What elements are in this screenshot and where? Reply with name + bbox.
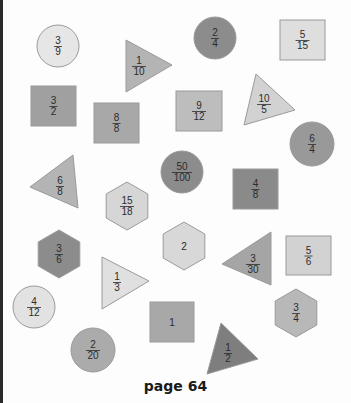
- fraction-numerator: 8: [114, 112, 120, 123]
- fraction-denominator: 10: [133, 66, 145, 77]
- fraction-denominator: 8: [57, 186, 63, 197]
- fraction-numerator: 4: [253, 178, 259, 189]
- square-shape: 48: [233, 169, 278, 209]
- fraction-numerator: 1: [136, 55, 142, 66]
- hexagon-shape: 36: [38, 230, 80, 278]
- square-shape: 912: [176, 91, 222, 131]
- fraction-denominator: 3: [114, 282, 120, 293]
- fraction-numerator: 15: [121, 195, 133, 206]
- shape-label: 1: [169, 317, 175, 328]
- fraction-denominator: 30: [247, 264, 259, 275]
- fraction-denominator: 20: [87, 350, 99, 361]
- fraction-numerator: 3: [51, 95, 57, 106]
- fraction-denominator: 2: [225, 353, 231, 364]
- fraction-denominator: 8: [114, 123, 120, 134]
- fraction-denominator: 4: [212, 38, 218, 49]
- fraction-denominator: 100: [174, 172, 191, 183]
- hexagon-shape: 2: [163, 222, 205, 270]
- circle-shape: 39: [37, 25, 79, 67]
- triangle-shape: 68: [30, 155, 78, 208]
- fraction-numerator: 1: [225, 342, 231, 353]
- fraction-denominator: 6: [306, 256, 312, 267]
- circle-shape: 24: [194, 17, 236, 59]
- fraction-denominator: 12: [28, 307, 40, 318]
- fraction-numerator: 3: [55, 35, 61, 46]
- page-number: page 64: [0, 378, 351, 394]
- fraction-numerator: 2: [212, 27, 218, 38]
- hexagon-shape: 34: [275, 289, 317, 337]
- fraction-numerator: 5: [300, 29, 306, 40]
- fraction-shapes-canvas: 3911024515328891210564685010048151836233…: [0, 0, 351, 403]
- fraction-numerator: 3: [56, 243, 62, 254]
- fraction-numerator: 1: [114, 271, 120, 282]
- triangle-shape: 12: [207, 323, 258, 374]
- fraction-numerator: 3: [293, 302, 299, 313]
- worksheet-page: 3911024515328891210564685010048151836233…: [0, 0, 351, 403]
- square-shape: 88: [94, 103, 139, 143]
- fraction-numerator: 50: [176, 161, 188, 172]
- fraction-numerator: 5: [306, 245, 312, 256]
- fraction-numerator: 3: [250, 253, 256, 264]
- circle-shape: 412: [13, 286, 55, 328]
- fraction-denominator: 18: [121, 206, 133, 217]
- square-shape: 1: [150, 302, 194, 342]
- triangle-shape: 330: [222, 232, 271, 285]
- shape-label: 2: [181, 241, 187, 252]
- fraction-numerator: 2: [90, 339, 96, 350]
- fraction-numerator: 6: [57, 175, 63, 186]
- fraction-denominator: 4: [293, 313, 299, 324]
- fraction-numerator: 10: [258, 93, 270, 104]
- fraction-denominator: 4: [309, 144, 315, 155]
- fraction-numerator: 9: [196, 100, 202, 111]
- fraction-denominator: 12: [193, 111, 205, 122]
- fraction-numerator: 6: [309, 133, 315, 144]
- square-shape: 32: [31, 86, 76, 126]
- fraction-denominator: 6: [56, 254, 62, 265]
- fraction-numerator: 4: [31, 296, 37, 307]
- fraction-denominator: 5: [261, 104, 267, 115]
- triangle-shape: 13: [102, 257, 149, 309]
- circle-shape: 64: [290, 122, 334, 166]
- square-shape: 56: [286, 236, 331, 275]
- circle-shape: 50100: [161, 151, 203, 193]
- triangle-shape: 105: [244, 74, 295, 125]
- hexagon-shape: 1518: [106, 182, 148, 230]
- fraction-denominator: 2: [51, 106, 57, 117]
- circle-shape: 220: [71, 328, 115, 372]
- fraction-denominator: 8: [253, 189, 259, 200]
- triangle-shape: 110: [126, 40, 172, 92]
- fraction-denominator: 9: [55, 46, 61, 57]
- square-shape: 515: [280, 20, 325, 60]
- fraction-denominator: 15: [297, 40, 309, 51]
